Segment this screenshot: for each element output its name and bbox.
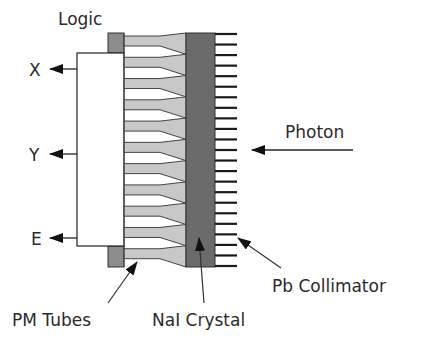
pm-tubes-pointer-arrow [108,262,137,303]
pm-tube [124,224,186,245]
gamma-camera-diagram: Logic X Y E Photon PM Tubes NaI Crystal … [0,0,431,347]
pm-tubes [124,33,186,267]
x-output-label: X [29,60,41,80]
pm-tube [124,246,186,267]
pm-tube [124,139,186,160]
pm-tube [124,33,186,54]
pm-tubes-label: PM Tubes [12,310,91,330]
pb-collimator-pointer-arrow [238,238,281,268]
photon-label: Photon [285,122,344,142]
pm-tube [124,203,186,224]
pm-tube [124,182,186,203]
y-output-label: Y [28,145,40,165]
e-output-label: E [31,229,42,249]
pb-collimator-label: Pb Collimator [272,276,386,296]
pm-tube [124,161,186,182]
pm-tube [124,76,186,97]
nai-crystal-label: NaI Crystal [152,310,245,330]
logic-label: Logic [58,9,102,29]
pm-tube [124,97,186,118]
logic-box [77,53,124,246]
pm-tube [124,54,186,75]
pm-tube [124,118,186,139]
nai-crystal [186,33,215,267]
logic-block-top [108,33,124,53]
pb-collimator [215,34,237,266]
logic-block-bottom [108,246,124,267]
